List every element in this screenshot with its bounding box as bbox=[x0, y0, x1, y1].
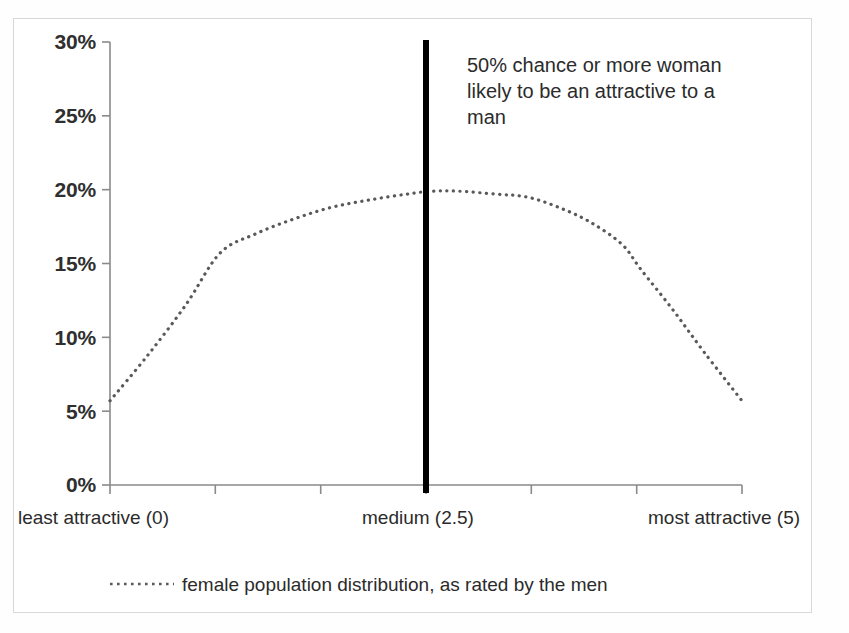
y-axis-tick-label-group: 30% 25% 20% 15% 10% 5% 0% bbox=[0, 0, 96, 633]
y-tick-label-15: 15% bbox=[8, 253, 96, 274]
threshold-callout-line-3: man bbox=[467, 104, 797, 130]
y-tick-label-5: 5% bbox=[8, 401, 96, 422]
threshold-callout-line-1: 50% chance or more woman bbox=[467, 52, 797, 78]
dotted-line-marker-icon bbox=[110, 578, 174, 590]
threshold-callout-line-2: likely to be an attractive to a bbox=[467, 78, 797, 104]
x-axis-label-most-attractive: most attractive (5) bbox=[648, 508, 800, 527]
chart-screenshot: 30% 25% 20% 15% 10% 5% 0% least attracti… bbox=[0, 0, 849, 633]
x-axis-label-medium: medium (2.5) bbox=[362, 508, 474, 527]
y-tick-label-25: 25% bbox=[8, 105, 96, 126]
y-tick-label-20: 20% bbox=[8, 179, 96, 200]
legend-entry-label: female population distribution, as rated… bbox=[182, 575, 608, 594]
chart-legend: female population distribution, as rated… bbox=[110, 569, 608, 599]
x-axis-label-least-attractive: least attractive (0) bbox=[18, 508, 169, 527]
threshold-callout-text: 50% chance or more woman likely to be an… bbox=[467, 52, 797, 130]
y-tick-label-0: 0% bbox=[8, 474, 96, 495]
y-tick-label-10: 10% bbox=[8, 327, 96, 348]
y-tick-label-30: 30% bbox=[8, 31, 96, 52]
y-axis-ticks bbox=[102, 42, 110, 485]
